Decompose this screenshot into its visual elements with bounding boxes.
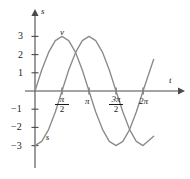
- y-axis-arrowhead: [31, 9, 38, 16]
- x-axis-label: t: [169, 76, 172, 85]
- x-tick-denominator: 2: [109, 104, 123, 114]
- y-tick-label: 3: [18, 31, 23, 41]
- x-tick-label: 3π2: [109, 95, 123, 114]
- y-tick-label: −3: [11, 141, 22, 151]
- x-tick-denominator: 2: [55, 104, 69, 114]
- x-axis-arrowhead: [178, 87, 185, 94]
- curve-label-s: s: [46, 133, 50, 142]
- chart-plot-area: [0, 0, 190, 179]
- x-tick-label: π: [85, 96, 90, 106]
- y-tick-label: 2: [18, 50, 23, 60]
- x-tick-label: π2: [55, 95, 69, 114]
- curve-label-v: v: [60, 28, 64, 37]
- x-tick-label: 2π: [139, 96, 148, 106]
- y-tick-label: 1: [18, 68, 23, 78]
- x-tick-numerator: π: [55, 95, 69, 104]
- y-tick-label: −1: [11, 104, 22, 114]
- axes-group: [25, 9, 185, 168]
- x-tick-numerator: 3π: [109, 95, 123, 104]
- y-tick-label: −2: [11, 122, 22, 132]
- chart-figure: s t v s 321−1−2−3 π2π3π22π: [0, 0, 190, 179]
- y-axis-label: s: [41, 7, 45, 16]
